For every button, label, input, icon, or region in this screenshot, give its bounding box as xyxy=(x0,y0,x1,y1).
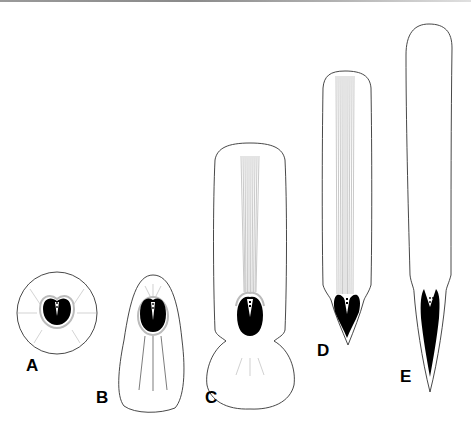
panel-a-drawing xyxy=(17,272,97,354)
panel-label-b: B xyxy=(96,389,108,406)
panel-c-drawing xyxy=(207,143,295,409)
panel-label-d: D xyxy=(317,342,329,359)
panel-e-drawing xyxy=(406,24,452,392)
diagram-canvas xyxy=(0,0,471,427)
panel-label-a: A xyxy=(26,357,38,374)
panel-b-drawing xyxy=(119,275,184,412)
panel-label-e: E xyxy=(400,368,411,385)
panel-label-c: C xyxy=(205,389,217,406)
panel-d-drawing xyxy=(322,71,372,345)
